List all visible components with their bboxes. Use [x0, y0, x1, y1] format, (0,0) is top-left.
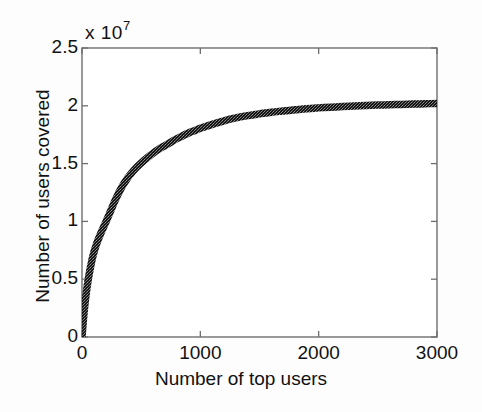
axes-frame	[82, 48, 437, 337]
y-axis-title: Number of users covered	[32, 89, 53, 302]
plot-area	[0, 0, 482, 412]
x-axis-title: Number of top users	[0, 368, 482, 390]
figure-canvas: x 107 00.511.522.5 0100020003000 Number …	[0, 0, 482, 412]
y-axis-title-wrapper: Number of users covered	[32, 46, 54, 346]
